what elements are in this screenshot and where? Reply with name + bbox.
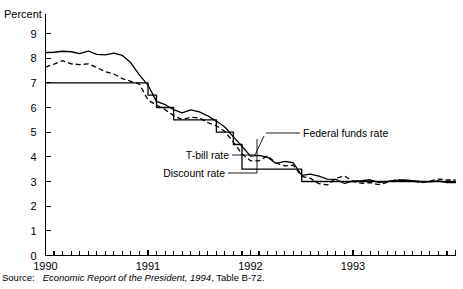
series-label-discount: Discount rate xyxy=(163,167,225,179)
chart-axes xyxy=(46,14,456,256)
chart-figure: Percent 0123456789 1990199119921993 Fede… xyxy=(0,0,463,289)
x-tick-label: 1990 xyxy=(33,260,57,272)
leader-tbill xyxy=(232,136,264,155)
x-tick-label: 1993 xyxy=(341,260,365,272)
y-tick-label: 5 xyxy=(30,126,36,138)
chart-series-lines xyxy=(46,51,456,185)
source-label: Source: xyxy=(2,272,35,283)
annotation-leader-lines xyxy=(228,133,300,173)
y-tick-label: 3 xyxy=(30,176,36,188)
series-line-federal-funds-rate xyxy=(46,51,456,183)
series-label-tbill: T-bill rate xyxy=(186,149,229,161)
series-label-federal-funds: Federal funds rate xyxy=(303,127,388,139)
y-tick-labels: 0123456789 xyxy=(30,28,36,262)
x-tick-label: 1991 xyxy=(136,260,160,272)
y-tick-label: 1 xyxy=(30,225,36,237)
y-tick-label: 4 xyxy=(30,151,36,163)
source-title: Economic Report of the President, 1994 xyxy=(43,272,211,283)
y-tick-label: 2 xyxy=(30,200,36,212)
interest-rates-line-chart: Percent 0123456789 1990199119921993 Fede… xyxy=(0,0,463,289)
x-tick-labels: 1990199119921993 xyxy=(33,260,365,272)
source-note: Source: Economic Report of the President… xyxy=(2,272,264,284)
y-tick-label: 8 xyxy=(30,52,36,64)
y-tick-label: 9 xyxy=(30,28,36,40)
series-line-t-bill-rate xyxy=(46,61,456,185)
y-axis-title: Percent xyxy=(4,8,42,20)
y-tick-label: 7 xyxy=(30,77,36,89)
series-line-discount-rate xyxy=(46,83,456,182)
y-tick-label: 6 xyxy=(30,102,36,114)
source-tail: , Table B-72. xyxy=(211,272,264,283)
x-tick-label: 1992 xyxy=(238,260,262,272)
